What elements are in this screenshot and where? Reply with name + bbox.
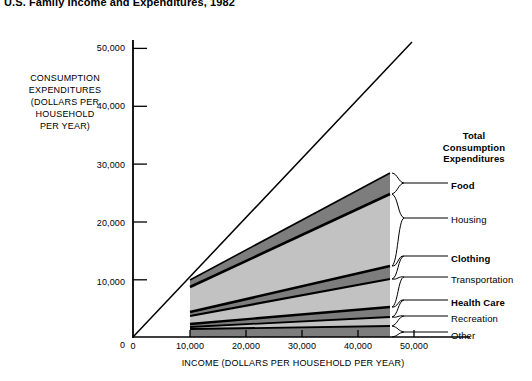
legend-leader-lines	[392, 173, 448, 337]
stacked-area-bands	[190, 173, 390, 337]
chart-plot-area	[0, 0, 532, 381]
legend-brace-health-care	[392, 300, 404, 317]
legend-brace-transportation	[392, 277, 404, 307]
legend-brace-clothing	[392, 256, 404, 279]
legend-brace-housing	[392, 194, 404, 266]
legend-brace-other	[392, 326, 404, 337]
legend-brace-food	[392, 173, 404, 194]
legend-brace-recreation	[392, 316, 404, 326]
y-axis-ticks	[133, 48, 147, 279]
chart-container: U.S. Family Income and Expenditures, 198…	[0, 0, 532, 381]
